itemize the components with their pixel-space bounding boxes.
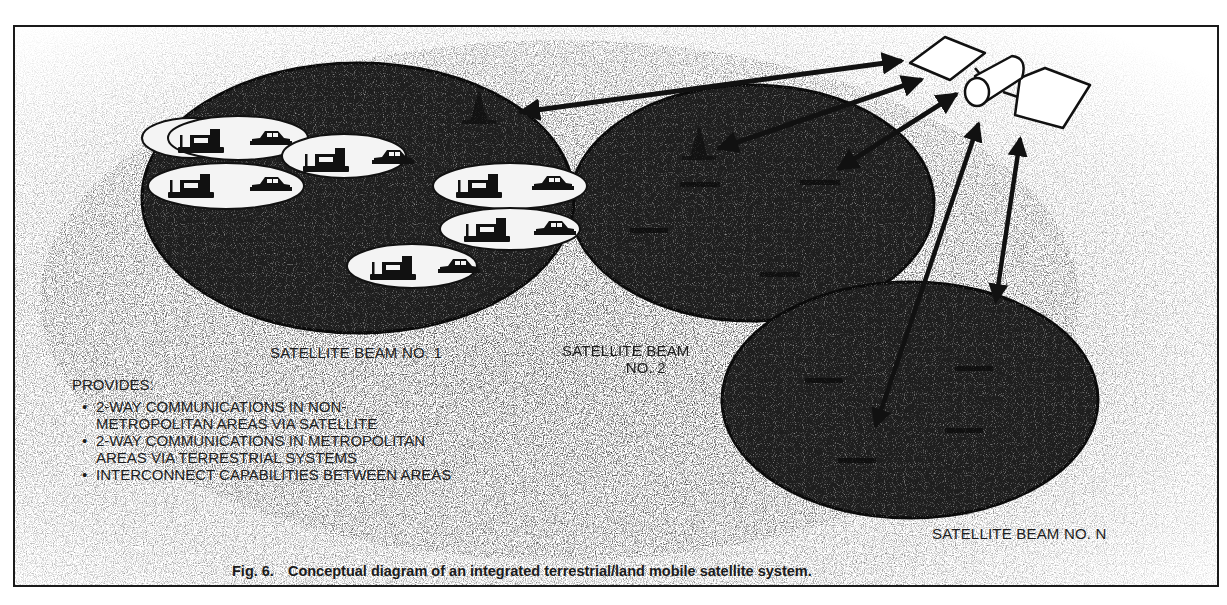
- provides-item: 2-WAY COMMUNICATIONS IN NON- METROPOLITA…: [96, 398, 451, 432]
- provides-title: PROVIDES:: [72, 376, 451, 393]
- beam-n-label: SATELLITE BEAM NO. N: [932, 525, 1107, 542]
- beam-2-label-line2: NO. 2: [562, 359, 690, 376]
- provides-item-line: AREAS VIA TERRESTRIAL SYSTEMS: [96, 449, 451, 466]
- figure-caption: Fig. 6. Conceptual diagram of an integra…: [232, 563, 812, 579]
- metro-cell: [433, 163, 587, 209]
- provides-bullets: 2-WAY COMMUNICATIONS IN NON- METROPOLITA…: [72, 398, 451, 483]
- provides-item: 2-WAY COMMUNICATIONS IN METROPOLITAN ARE…: [96, 432, 451, 466]
- provides-item-line: 2-WAY COMMUNICATIONS IN NON-: [96, 398, 451, 415]
- provides-item-line: 2-WAY COMMUNICATIONS IN METROPOLITAN: [96, 432, 451, 449]
- provides-item-line: INTERCONNECT CAPABILITIES BETWEEN AREAS: [96, 466, 451, 483]
- beam-1-label: SATELLITE BEAM NO. 1: [270, 344, 442, 361]
- figure-container: SATELLITE BEAM NO. 1 METROPOLITAN SYSTEM…: [0, 0, 1227, 605]
- diagram-canvas: [0, 0, 1227, 605]
- figure-number: Fig. 6.: [232, 563, 274, 579]
- provides-list: PROVIDES: 2-WAY COMMUNICATIONS IN NON- M…: [72, 376, 451, 483]
- figure-caption-text: Conceptual diagram of an integrated terr…: [288, 563, 812, 579]
- provides-item-line: METROPOLITAN AREAS VIA SATELLITE: [96, 415, 451, 432]
- provides-item: INTERCONNECT CAPABILITIES BETWEEN AREAS: [96, 466, 451, 483]
- metro-cell: [347, 244, 480, 288]
- metro-cell: [148, 163, 304, 209]
- metro-cell: [440, 208, 580, 250]
- beam-2-label-line1: SATELLITE BEAM: [562, 342, 690, 359]
- satellite-beam-n: [722, 282, 1098, 518]
- beam-2-label: SATELLITE BEAM NO. 2: [562, 342, 690, 376]
- beam-1-inner-label: METROPOLITAN SYSTEMS: [232, 222, 429, 239]
